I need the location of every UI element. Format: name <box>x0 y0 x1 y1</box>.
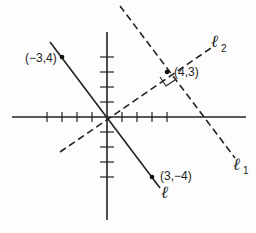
coordinate-diagram: (−3,4) (4,3) (3,−4) ℓ ℓ 2 ℓ 1 <box>0 0 256 233</box>
line-label-l2: ℓ <box>211 31 218 51</box>
line-l1 <box>120 6 235 158</box>
line-label-l2-subscript: 2 <box>221 43 227 54</box>
line-l <box>50 42 160 188</box>
diagram-canvas: (−3,4) (4,3) (3,−4) ℓ ℓ 2 ℓ 1 <box>0 0 256 233</box>
point-label-4-3: (4,3) <box>174 65 199 79</box>
line-label-l1-subscript: 1 <box>243 165 249 176</box>
point-label-neg3-4: (−3,4) <box>25 51 57 65</box>
point-3-neg4 <box>150 175 155 180</box>
point-label-3-neg4: (3,−4) <box>160 169 192 183</box>
point-4-3 <box>165 70 170 75</box>
line-label-l: ℓ <box>161 182 168 202</box>
point-neg3-4 <box>60 55 65 60</box>
line-label-l1: ℓ <box>233 154 240 174</box>
